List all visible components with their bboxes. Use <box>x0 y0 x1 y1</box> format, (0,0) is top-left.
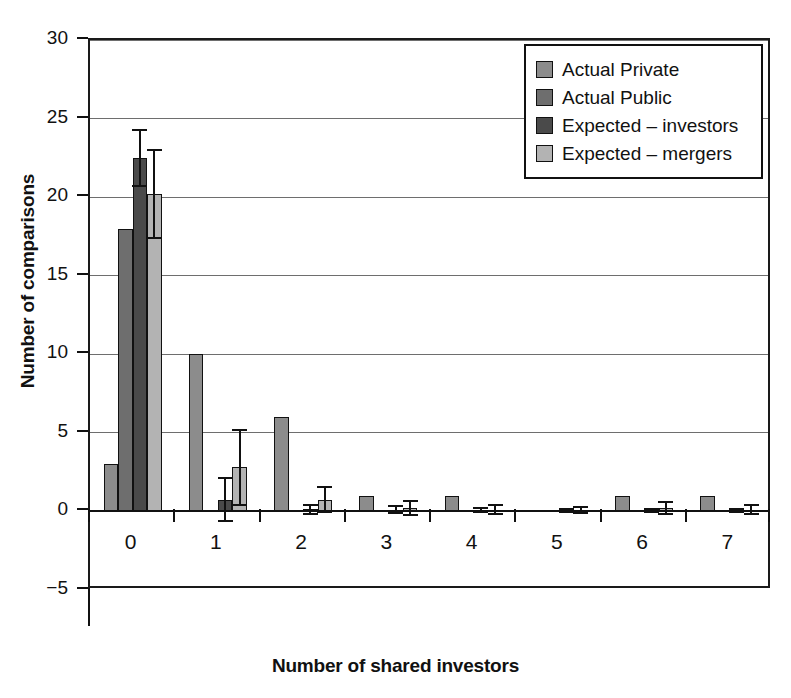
error-bar-cap-upper <box>388 505 403 507</box>
error-bar-cap-lower <box>317 511 332 513</box>
chart-root: Number of comparisons −5051015202530 012… <box>0 0 791 698</box>
error-bar-cap-lower <box>473 511 488 513</box>
gridline <box>90 40 768 41</box>
error-bar <box>147 149 162 239</box>
error-bar-stem <box>239 429 241 506</box>
bar <box>274 417 289 511</box>
error-bar <box>403 500 418 516</box>
legend-label: Actual Public <box>562 88 672 107</box>
legend-swatch-expected-mergers <box>536 145 553 162</box>
y-axis-tick-label: 20 <box>8 185 68 204</box>
error-bar <box>303 504 318 515</box>
error-bar-cap-lower <box>573 512 588 514</box>
error-bar-cap-lower <box>559 511 574 513</box>
error-bar-cap-lower <box>403 514 418 516</box>
legend-item: Expected – mergers <box>536 139 751 167</box>
legend-label: Expected – mergers <box>562 144 732 163</box>
x-axis-tick <box>173 509 175 522</box>
x-axis-tick <box>429 509 431 522</box>
legend-label: Expected – investors <box>562 116 738 135</box>
bar <box>133 158 148 512</box>
legend-swatch-actual-public <box>536 89 553 106</box>
error-bar <box>573 506 588 514</box>
error-bar-cap-upper <box>644 508 659 510</box>
legend-item: Actual Public <box>536 83 751 111</box>
error-bar <box>488 504 503 515</box>
legend-swatch-actual-private <box>536 61 553 78</box>
error-bar-cap-lower <box>658 513 673 515</box>
legend-swatch-expected-investors <box>536 117 553 134</box>
legend-item: Expected – investors <box>536 111 751 139</box>
y-axis-tick-label: −5 <box>8 578 68 597</box>
error-bar <box>218 477 233 523</box>
gridline <box>90 275 768 276</box>
y-axis-tick-label: 5 <box>8 421 68 440</box>
x-axis-tick-label: 6 <box>612 531 672 552</box>
error-bar-cap-upper <box>559 508 574 510</box>
error-bar <box>744 504 759 515</box>
bar <box>147 194 162 511</box>
y-axis-tick-label: 30 <box>8 28 68 47</box>
x-axis-tick-label: 0 <box>101 531 161 552</box>
bar <box>104 464 119 511</box>
error-bar-cap-upper <box>232 429 247 431</box>
error-bar <box>318 486 333 513</box>
y-axis-tick <box>77 194 88 196</box>
error-bar-cap-lower <box>644 511 659 513</box>
x-axis-tick <box>344 509 346 522</box>
error-bar <box>729 508 744 513</box>
legend-label: Actual Private <box>562 60 679 79</box>
error-bar <box>559 508 574 513</box>
y-axis-tick <box>77 351 88 353</box>
error-bar-cap-upper <box>317 486 332 488</box>
x-axis-tick-label: 1 <box>186 531 246 552</box>
x-axis-tick-label: 4 <box>442 531 502 552</box>
y-axis-tick <box>77 430 88 432</box>
error-bar-cap-upper <box>218 477 233 479</box>
error-bar-cap-lower <box>132 185 147 187</box>
error-bar-cap-upper <box>473 507 488 509</box>
y-axis-tick <box>77 587 88 589</box>
error-bar <box>659 501 674 514</box>
error-bar-stem <box>139 129 141 187</box>
y-axis-tick <box>77 37 88 39</box>
error-bar <box>133 129 148 187</box>
error-bar-cap-upper <box>744 504 759 506</box>
error-bar-cap-lower <box>232 504 247 506</box>
error-bar-stem <box>324 486 326 513</box>
error-bar-cap-lower <box>744 513 759 515</box>
bar <box>700 496 715 512</box>
y-axis-tick-label: 15 <box>8 264 68 283</box>
error-bar-cap-lower <box>388 512 403 514</box>
error-bar-cap-upper <box>573 506 588 508</box>
error-bar <box>388 505 403 514</box>
x-axis-tick <box>768 509 770 522</box>
x-axis-tick <box>600 509 602 522</box>
bar <box>118 229 133 512</box>
error-bar-cap-lower <box>218 520 233 522</box>
error-bar-cap-upper <box>403 500 418 502</box>
y-axis-tick-label: 10 <box>8 342 68 361</box>
error-bar <box>474 507 489 513</box>
x-axis-tick-label: 7 <box>697 531 757 552</box>
error-bar-cap-upper <box>658 501 673 503</box>
error-bar-cap-upper <box>132 129 147 131</box>
chart-legend: Actual Private Actual Public Expected – … <box>524 44 763 179</box>
x-axis-title: Number of shared investors <box>0 655 791 677</box>
error-bar-cap-lower <box>147 237 162 239</box>
error-bar-cap-upper <box>488 504 503 506</box>
error-bar-cap-lower <box>303 513 318 515</box>
x-axis-tick-label: 3 <box>356 531 416 552</box>
y-axis-tick <box>77 116 88 118</box>
x-axis-tick <box>88 509 90 522</box>
y-axis-tick-label: 0 <box>8 499 68 518</box>
error-bar-cap-lower <box>488 513 503 515</box>
y-axis-tick <box>77 508 88 510</box>
x-axis-tick <box>514 509 516 522</box>
error-bar-cap-upper <box>303 504 318 506</box>
y-axis-tick <box>77 273 88 275</box>
bar <box>615 496 630 512</box>
bar <box>445 496 460 512</box>
error-bar-cap-upper <box>147 149 162 151</box>
error-bar-cap-upper <box>729 508 744 510</box>
